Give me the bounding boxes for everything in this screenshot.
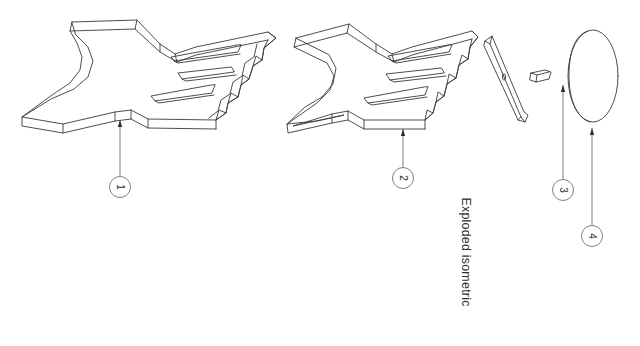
part-3-pin-fastener [530,70,551,82]
leader-arrowhead-3 [561,85,565,92]
part-2-bracket-body [287,24,528,133]
part-2-rail-body [484,36,528,122]
part-3-pin-body [530,70,551,82]
leader-arrowhead-2 [401,129,405,136]
balloon-number-3: 3 [558,187,569,193]
callout-balloon-2[interactable]: 2 [393,129,414,189]
part-2-top-face [287,24,478,126]
leader-arrowhead-1 [118,120,122,127]
view-caption-label: Exploded isometric [459,197,473,306]
callout-balloon-3[interactable]: 3 [553,85,574,201]
balloon-number-1: 1 [115,184,126,190]
balloon-number-2: 2 [398,175,409,181]
part-4-oval-cover-disc [568,30,618,122]
leader-arrowhead-4 [590,128,594,135]
callout-balloon-4[interactable]: 4 [582,128,603,247]
part-1-top-face [22,20,276,124]
callout-balloon-1[interactable]: 1 [110,120,131,198]
technical-drawing-canvas: 1234 Exploded isometric [0,0,640,346]
part-2-detached-rail [484,36,528,122]
balloon-number-4: 4 [587,233,598,239]
part-1-bracket-assembly [22,20,276,133]
